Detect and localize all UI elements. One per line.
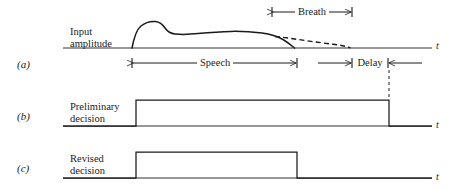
signal-label-line: Revised xyxy=(70,153,105,165)
signal-label-panel-0: Inputamplitude xyxy=(70,26,112,49)
waveform-layer xyxy=(132,21,389,100)
signal-label-line: decision xyxy=(70,113,120,125)
signal-label-line: Preliminary xyxy=(70,101,120,113)
axis-variable-panel-2: t xyxy=(436,171,439,182)
signal-label-panel-1: Preliminarydecision xyxy=(70,101,120,124)
decision-pulse-panel-2 xyxy=(63,152,432,178)
span-label-delay: Delay xyxy=(355,57,386,68)
signal-timing-figure: (a)Inputamplitudet(b)Preliminarydecision… xyxy=(0,0,453,189)
span-label-breath: Breath xyxy=(295,6,329,17)
signal-label-panel-2: Reviseddecision xyxy=(70,153,105,176)
signal-label-line: decision xyxy=(70,165,105,177)
panel-key-c: (c) xyxy=(17,162,29,174)
axis-variable-panel-1: t xyxy=(436,119,439,130)
span-label-speech: Speech xyxy=(197,57,233,68)
panel-key-a: (a) xyxy=(17,58,30,70)
panel-key-b: (b) xyxy=(17,110,30,122)
signal-label-line: Input xyxy=(70,26,112,38)
signal-label-line: amplitude xyxy=(70,38,112,50)
figure-canvas xyxy=(0,0,453,189)
speech-envelope-curve xyxy=(132,21,295,48)
axis-variable-panel-0: t xyxy=(436,40,439,51)
